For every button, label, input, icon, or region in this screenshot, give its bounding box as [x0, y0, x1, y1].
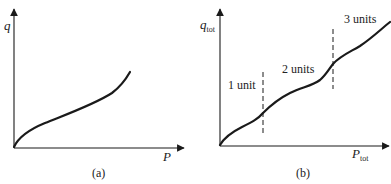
region-label-3-units: 3 units	[344, 12, 377, 26]
caption-b: (b)	[296, 166, 310, 180]
curve-a	[14, 72, 130, 147]
caption-a: (a)	[92, 166, 105, 180]
region-label-1-unit: 1 unit	[228, 78, 256, 92]
panel-b: qtot Ptot 1 unit 2 units 3 units (b)	[200, 9, 390, 180]
panel-a: q P (a)	[4, 9, 184, 180]
y-axis-label-a: q	[4, 18, 11, 33]
x-axis-label-a: P	[162, 149, 171, 164]
x-axis-label-b: Ptot	[351, 146, 369, 163]
diagram-canvas: q P (a) qtot Ptot 1 unit 2 units 3 units…	[0, 0, 391, 184]
region-label-2-units: 2 units	[282, 62, 315, 76]
y-axis-label-b: qtot	[200, 17, 216, 34]
